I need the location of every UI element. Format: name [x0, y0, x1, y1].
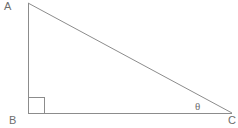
right-angle-marker-icon [28, 97, 44, 113]
geometry-figure-canvas: A B C θ [0, 0, 238, 128]
angle-label-theta: θ [195, 101, 200, 112]
right-triangle-drawing [0, 0, 238, 128]
vertex-label-a: A [4, 1, 11, 12]
edge-ac-hypotenuse [28, 3, 232, 113]
vertex-label-b: B [9, 115, 16, 126]
vertex-label-c: C [228, 115, 236, 126]
